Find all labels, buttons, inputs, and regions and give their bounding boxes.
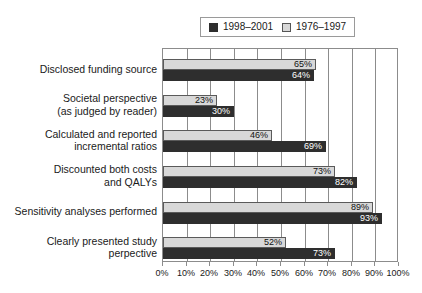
x-tick-mark (209, 262, 210, 266)
category-label-line: (as judged by reader) (4, 105, 157, 118)
category-label: Discounted both costsand QALYs (4, 163, 162, 188)
x-tick-label: 40% (247, 269, 265, 278)
bar-chart: 1998–2001 1976–1997 65%64%23%30%46%69%73… (0, 0, 422, 293)
x-tick-label: 80% (342, 269, 360, 278)
bar-light: 65% (163, 59, 316, 70)
category-label-line: and QALYs (4, 176, 157, 189)
category-label-line: Disclosed funding source (4, 63, 157, 76)
bar-value-label: 23% (195, 96, 216, 105)
legend-item-1998-2001: 1998–2001 (209, 22, 273, 32)
x-tick-label: 70% (318, 269, 336, 278)
x-tick-label: 60% (295, 269, 313, 278)
category-label-line: Clearly presented study (4, 235, 157, 248)
x-tick-mark (374, 262, 375, 266)
grid-line (352, 49, 353, 261)
bar-dark: 69% (163, 141, 326, 152)
category-label: Societal perspective(as judged by reader… (4, 92, 162, 117)
category-label: Disclosed funding source (4, 63, 162, 76)
bar-light: 73% (163, 166, 335, 177)
dark-swatch-icon (209, 23, 218, 32)
legend-item-1976-1997: 1976–1997 (282, 22, 346, 32)
x-tick-mark (398, 262, 399, 266)
x-tick-mark (351, 262, 352, 266)
category-label: Clearly presented studyperpective (4, 235, 162, 260)
category-label-line: incremental ratios (4, 140, 157, 153)
x-tick-mark (280, 262, 281, 266)
x-tick-label: 50% (271, 269, 289, 278)
bar-value-label: 69% (304, 142, 325, 151)
grid-line (375, 49, 376, 261)
bar-light: 52% (163, 237, 286, 248)
plot-area: 65%64%23%30%46%69%73%82%89%93%52%73% (162, 48, 398, 262)
bar-value-label: 82% (335, 178, 356, 187)
bar-value-label: 89% (351, 203, 372, 212)
x-tick-mark (186, 262, 187, 266)
category-label: Calculated and reportedincremental ratio… (4, 128, 162, 153)
bar-light: 46% (163, 130, 272, 141)
light-swatch-icon (282, 23, 291, 32)
bar-dark: 30% (163, 106, 234, 117)
category-label: Sensitivity analyses performed (4, 205, 162, 218)
x-tick-mark (233, 262, 234, 266)
bar-dark: 64% (163, 70, 314, 81)
category-label-line: Discounted both costs (4, 163, 157, 176)
x-tick-label: 0% (155, 269, 168, 278)
x-tick-label: 90% (365, 269, 383, 278)
bar-value-label: 46% (250, 131, 271, 140)
category-label-line: Societal perspective (4, 92, 157, 105)
bar-value-label: 93% (360, 214, 381, 223)
x-tick-label: 100% (386, 269, 409, 278)
category-label-line: Sensitivity analyses performed (4, 205, 157, 218)
bar-dark: 73% (163, 248, 335, 259)
grid-line (328, 49, 329, 261)
x-tick-label: 10% (177, 269, 195, 278)
bar-light: 23% (163, 95, 217, 106)
legend-label-1976-1997: 1976–1997 (296, 22, 346, 32)
bar-value-label: 64% (292, 71, 313, 80)
category-label-line: Calculated and reported (4, 128, 157, 141)
x-tick-mark (327, 262, 328, 266)
x-tick-mark (162, 262, 163, 266)
bar-dark: 82% (163, 177, 357, 188)
bar-dark: 93% (163, 213, 382, 224)
x-tick-mark (256, 262, 257, 266)
bar-value-label: 30% (212, 107, 233, 116)
category-label-line: perpective (4, 247, 157, 260)
chart-legend: 1998–2001 1976–1997 (200, 17, 355, 37)
x-tick-label: 30% (224, 269, 242, 278)
bar-value-label: 73% (313, 249, 334, 258)
legend-label-1998-2001: 1998–2001 (223, 22, 273, 32)
x-tick-label: 20% (200, 269, 218, 278)
bar-light: 89% (163, 202, 373, 213)
bar-value-label: 65% (294, 60, 315, 69)
x-tick-mark (304, 262, 305, 266)
bar-value-label: 52% (264, 238, 285, 247)
bar-value-label: 73% (313, 167, 334, 176)
